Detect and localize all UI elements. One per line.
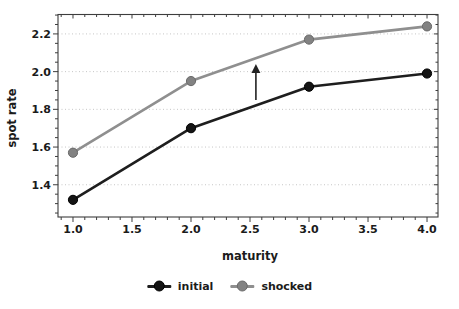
legend-label-initial: initial (178, 280, 214, 292)
x-tick-label: 2.0 (181, 223, 201, 236)
initial-marker (68, 195, 77, 204)
shocked-marker (186, 76, 195, 85)
initial-series-marker-icon (147, 281, 171, 292)
x-tick-label: 4.0 (417, 223, 437, 236)
legend-item-initial: initial (147, 280, 214, 292)
shocked-marker (68, 148, 77, 157)
spot-rate-curve-chart: 1.01.52.02.53.03.54.01.41.61.82.02.2matu… (0, 0, 459, 309)
x-tick-label: 1.5 (122, 223, 142, 236)
y-tick-label: 1.6 (32, 141, 52, 154)
x-axis-label: maturity (222, 249, 279, 263)
plot-frame (58, 15, 438, 218)
shock-arrow-icon (251, 64, 260, 73)
x-tick-label: 1.0 (63, 223, 83, 236)
initial-marker (422, 69, 431, 78)
legend-item-shocked: shocked (230, 280, 312, 292)
x-tick-label: 3.5 (358, 223, 378, 236)
shocked-series-marker-icon (230, 281, 254, 292)
y-tick-label: 2.2 (32, 28, 52, 41)
initial-marker (304, 82, 313, 91)
x-tick-label: 3.0 (299, 223, 319, 236)
y-tick-label: 2.0 (32, 66, 52, 79)
x-tick-label: 2.5 (240, 223, 260, 236)
initial-marker (186, 124, 195, 133)
legend: initial shocked (147, 280, 312, 292)
legend-label-shocked: shocked (261, 280, 312, 292)
chart-plot-area: 1.01.52.02.53.03.54.01.41.61.82.02.2matu… (0, 0, 459, 309)
shocked-marker (422, 22, 431, 31)
shocked-marker (304, 35, 313, 44)
initial-line (73, 74, 427, 200)
y-axis-label: spot rate (5, 88, 19, 147)
shocked-line (73, 26, 427, 152)
y-tick-label: 1.4 (32, 179, 52, 192)
y-tick-label: 1.8 (32, 103, 52, 116)
